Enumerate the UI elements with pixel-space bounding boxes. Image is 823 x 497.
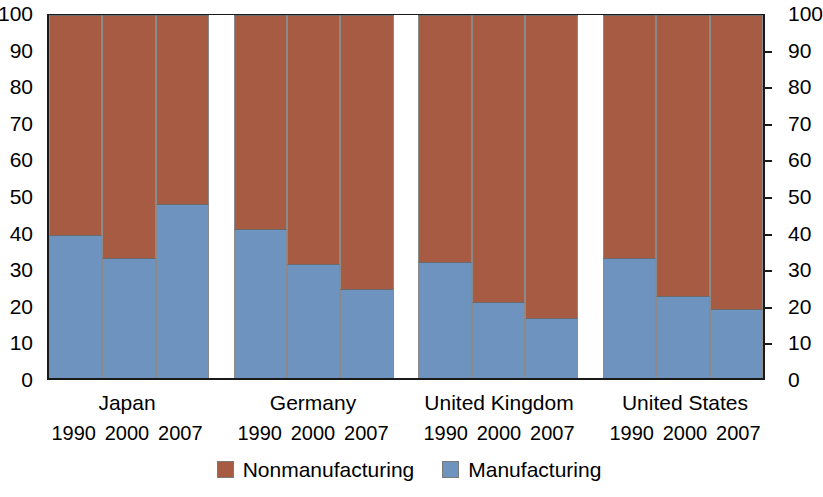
segment-nonmanufacturing[interactable] (49, 15, 102, 235)
segment-manufacturing[interactable] (234, 229, 287, 378)
segment-nonmanufacturing[interactable] (525, 15, 578, 318)
country-cell-japan: Japan (47, 390, 207, 416)
segment-manufacturing[interactable] (525, 318, 578, 378)
year-label-japan-2007: 2007 (154, 421, 207, 445)
y-tick-label-left-10: 10 (10, 332, 33, 353)
year-label-germany-2000: 2000 (286, 421, 339, 445)
country-cell-united-kingdom: United Kingdom (419, 390, 579, 416)
legend-label-manufacturing: Manufacturing (468, 458, 601, 481)
segment-nonmanufacturing[interactable] (656, 15, 709, 296)
bar-germany-1990[interactable] (234, 15, 287, 378)
segment-nonmanufacturing[interactable] (418, 15, 471, 262)
x-axis-year-labels: 1990200020071990200020071990200020071990… (47, 420, 765, 446)
country-label-germany: Germany (270, 391, 356, 415)
country-label-united-states: United States (622, 391, 748, 415)
bar-united-states-2007[interactable] (710, 15, 763, 378)
bar-japan-1990[interactable] (49, 15, 102, 378)
y-tick-label-right-60: 60 (788, 149, 811, 170)
segment-nonmanufacturing[interactable] (287, 15, 340, 264)
y-tick-mark-right-50 (765, 197, 772, 199)
bar-united-states-2000[interactable] (656, 15, 709, 378)
year-label-united-states-2000: 2000 (658, 421, 711, 445)
bar-japan-2000[interactable] (102, 15, 155, 378)
y-tick-label-right-100: 100 (788, 3, 823, 24)
year-label-united-kingdom-2000: 2000 (472, 421, 525, 445)
segment-manufacturing[interactable] (710, 309, 763, 378)
country-label-spacer (207, 390, 233, 416)
segment-nonmanufacturing[interactable] (340, 15, 393, 289)
y-tick-label-left-100: 100 (0, 3, 33, 24)
y-tick-mark-right-90 (765, 51, 772, 53)
year-label-spacer (579, 420, 605, 446)
legend-item-nonmanufacturing[interactable]: Nonmanufacturing (217, 458, 415, 481)
bar-group-japan (49, 15, 209, 378)
segment-manufacturing[interactable] (102, 258, 155, 378)
bar-germany-2000[interactable] (287, 15, 340, 378)
segment-manufacturing[interactable] (49, 235, 102, 378)
y-tick-label-right-10: 10 (788, 332, 811, 353)
year-label-united-kingdom-2007: 2007 (526, 421, 579, 445)
years-cell-japan: 199020002007 (47, 420, 207, 446)
y-tick-label-left-60: 60 (10, 149, 33, 170)
segment-manufacturing[interactable] (287, 264, 340, 378)
year-label-spacer (207, 420, 233, 446)
segment-nonmanufacturing[interactable] (710, 15, 763, 309)
segment-nonmanufacturing[interactable] (102, 15, 155, 258)
country-cell-germany: Germany (233, 390, 393, 416)
chart-legend: NonmanufacturingManufacturing (0, 458, 818, 481)
y-tick-label-right-40: 40 (788, 223, 811, 244)
segment-manufacturing[interactable] (156, 204, 209, 378)
bar-japan-2007[interactable] (156, 15, 209, 378)
y-tick-label-left-80: 80 (10, 76, 33, 97)
segment-nonmanufacturing[interactable] (156, 15, 209, 204)
y-tick-label-right-70: 70 (788, 113, 811, 134)
segment-manufacturing[interactable] (340, 289, 393, 378)
bar-united-kingdom-2007[interactable] (525, 15, 578, 378)
segment-manufacturing[interactable] (472, 302, 525, 378)
plot-area (47, 14, 765, 380)
segment-manufacturing[interactable] (656, 296, 709, 378)
y-tick-label-right-0: 0 (788, 369, 800, 390)
y-tick-label-left-40: 40 (10, 223, 33, 244)
segment-nonmanufacturing[interactable] (234, 15, 287, 229)
segment-manufacturing[interactable] (418, 262, 471, 378)
y-axis-right: 0102030405060708090100 (775, 14, 818, 380)
year-label-united-states-1990: 1990 (605, 421, 658, 445)
country-label-japan: Japan (98, 391, 155, 415)
group-spacer (578, 15, 603, 378)
year-label-spacer (393, 420, 419, 446)
segment-nonmanufacturing[interactable] (472, 15, 525, 302)
bar-united-kingdom-1990[interactable] (418, 15, 471, 378)
year-label-united-states-2007: 2007 (712, 421, 765, 445)
legend-item-manufacturing[interactable]: Manufacturing (442, 458, 601, 481)
y-tick-mark-right-60 (765, 160, 772, 162)
segment-manufacturing[interactable] (603, 258, 656, 378)
bar-group-united-kingdom (418, 15, 578, 378)
group-spacer (209, 15, 234, 378)
y-tick-label-left-20: 20 (10, 296, 33, 317)
y-tick-label-right-50: 50 (788, 186, 811, 207)
years-cell-united-states: 199020002007 (605, 420, 765, 446)
y-tick-label-left-50: 50 (10, 186, 33, 207)
years-cell-germany: 199020002007 (233, 420, 393, 446)
y-tick-mark-right-20 (765, 307, 772, 309)
y-tick-label-right-30: 30 (788, 259, 811, 280)
y-tick-mark-right-70 (765, 124, 772, 126)
group-spacer (394, 15, 419, 378)
bar-germany-2007[interactable] (340, 15, 393, 378)
legend-swatch-manufacturing (442, 461, 459, 478)
year-label-japan-2000: 2000 (100, 421, 153, 445)
year-label-united-kingdom-1990: 1990 (419, 421, 472, 445)
country-cell-united-states: United States (605, 390, 765, 416)
year-label-japan-1990: 1990 (47, 421, 100, 445)
segment-nonmanufacturing[interactable] (603, 15, 656, 258)
years-cell-united-kingdom: 199020002007 (419, 420, 579, 446)
y-tick-label-left-30: 30 (10, 259, 33, 280)
y-tick-mark-right-80 (765, 87, 772, 89)
country-label-united-kingdom: United Kingdom (424, 391, 573, 415)
bar-united-kingdom-2000[interactable] (472, 15, 525, 378)
bar-group-germany (234, 15, 394, 378)
bar-united-states-1990[interactable] (603, 15, 656, 378)
y-tick-mark-right-10 (765, 343, 772, 345)
